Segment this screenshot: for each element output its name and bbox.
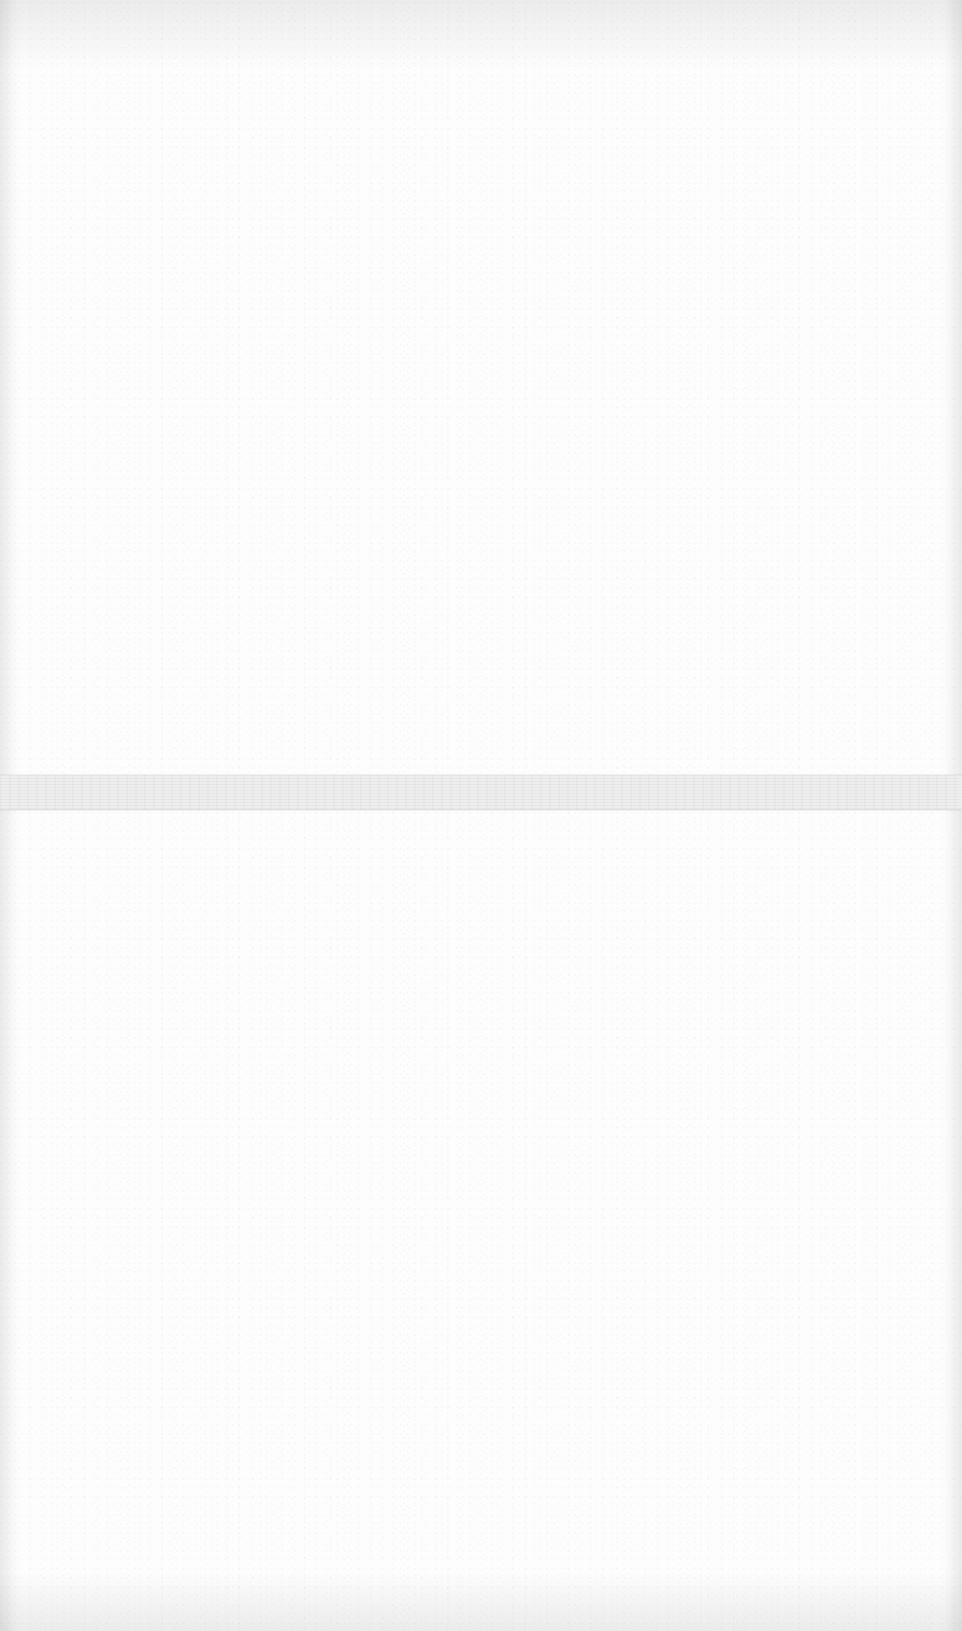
paper-texture — [0, 0, 962, 1631]
scan-shadow-right — [944, 0, 962, 1631]
band-edge-bottom — [0, 809, 962, 811]
scan-shadow-bottom — [0, 1571, 962, 1631]
scanned-page — [0, 0, 962, 1631]
scan-band — [0, 775, 962, 810]
scan-shadow-top — [0, 0, 962, 70]
scan-shadow-left — [0, 0, 18, 1631]
